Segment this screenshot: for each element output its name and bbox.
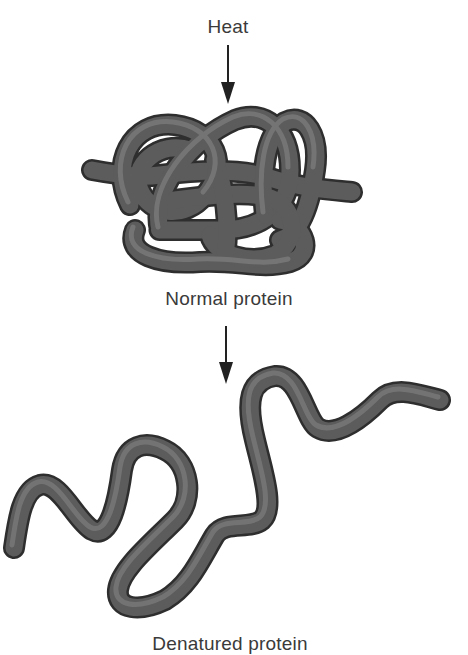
arrow-heat-to-normal-icon bbox=[221, 45, 235, 104]
normal-protein-label: Normal protein bbox=[165, 288, 292, 310]
heat-label: Heat bbox=[208, 16, 249, 38]
arrow-normal-to-denatured-icon bbox=[219, 326, 233, 384]
denatured-protein-label: Denatured protein bbox=[152, 633, 308, 655]
denatured-protein-shape bbox=[12, 373, 440, 607]
normal-protein-shape bbox=[92, 114, 352, 265]
